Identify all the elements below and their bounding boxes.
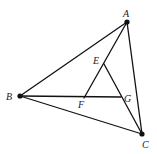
label-G: G: [124, 93, 131, 104]
vertex-dot-B: [17, 93, 22, 98]
segment-AC: [127, 22, 142, 134]
vertex-dot-C: [139, 131, 144, 136]
segment-BG: [20, 96, 121, 97]
triangle-diagram: A B C E F G: [0, 0, 157, 154]
label-B: B: [6, 91, 12, 102]
label-A: A: [122, 8, 130, 19]
label-F: F: [77, 99, 85, 110]
label-C: C: [142, 139, 149, 150]
vertex-dots: [17, 19, 144, 136]
segment-AF: [84, 22, 127, 98]
vertex-dot-A: [124, 19, 129, 24]
segments: [20, 22, 142, 134]
segment-AB: [20, 22, 127, 96]
label-E: E: [92, 55, 99, 66]
